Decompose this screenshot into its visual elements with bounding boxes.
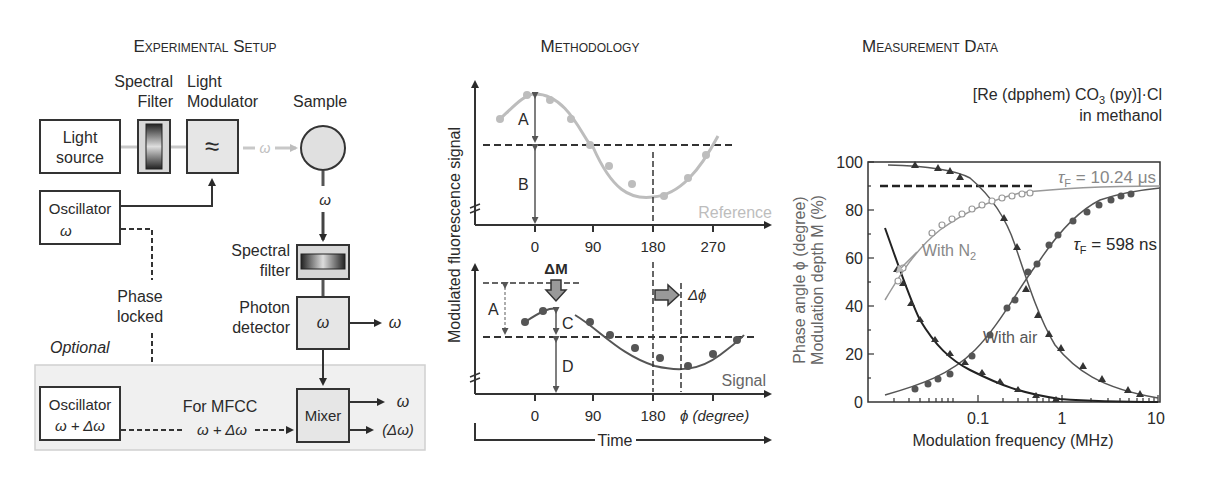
light-source-label-2: source [56,149,104,166]
detector-omega: ω [317,314,329,331]
phi-degree-label: ϕ (degree) [680,407,749,424]
sig-mark-a: A [488,301,499,318]
y-tick-0: 0 [854,394,863,411]
photon-detector-label: Photon [239,299,290,316]
sig-tick-90: 90 [585,407,602,424]
oscillator-2-freq: ω + Δω [55,417,105,434]
oscillator-2-label: Oscillator [49,396,112,413]
delta-phi-label: Δϕ [687,286,706,303]
light-modulator-label-2: Modulator [187,93,259,110]
tau-598ns-label: τF = 598 ns [1073,235,1157,256]
sample-circle [301,126,345,170]
detector-output-omega: ω [389,314,401,331]
modulator-wave-icon: ≈ [205,131,219,161]
spectral-filter-2-label-2: filter [260,262,291,279]
beam-omega: ω [260,140,271,156]
with-air-label: With air [983,329,1038,346]
time-label: Time [598,432,633,449]
reference-label: Reference [698,204,772,221]
ref-tick-270: 270 [700,238,725,255]
optional-label: Optional [50,339,110,356]
y-axis-label-2: Modulation depth M (%) [809,195,826,365]
methodology-title: Methodology [541,37,640,56]
delta-phi-arrow-icon [655,285,679,305]
y-axis-label-1: Phase angle ϕ (degree) [791,196,808,363]
ref-tick-180: 180 [640,238,665,255]
compound-label: [Re (dpphem) CO3 (py)]·Cl [973,86,1162,106]
for-mfcc-label: For MFCC [183,398,258,415]
measurement-title: Measurement Data [862,37,998,56]
ref-tick-90: 90 [585,238,602,255]
ref-tick-0: 0 [531,238,539,255]
setup-panel: Experimental Setup Spectral Filter Light… [35,37,425,450]
sig-mark-d: D [562,358,574,375]
sig-tick-180: 180 [640,407,665,424]
mfcc-signal-label: ω + Δω [197,421,247,438]
mixer-output-omega: ω [397,393,409,410]
measurement-panel: Measurement Data [Re (dpphem) CO3 (py)]·… [791,37,1165,449]
figure: Experimental Setup Spectral Filter Light… [0,0,1205,481]
signal-curve [525,309,744,370]
signal-label: Signal [722,372,766,389]
y-tick-20: 20 [845,346,863,363]
x-tick-0.1: 0.1 [967,410,989,427]
methodology-panel: Methodology Modulated fluorescence signa… [446,37,772,449]
sample-label: Sample [293,93,347,110]
ref-mark-b: B [518,176,529,193]
methodology-y-label: Modulated fluorescence signal [446,127,463,343]
light-source-label: Light [63,129,98,146]
light-modulator-label: Light [187,73,222,90]
y-tick-60: 60 [845,250,863,267]
photon-detector-label-2: detector [232,319,290,336]
y-tick-40: 40 [845,298,863,315]
tau-10us-label: τF = 10.24 μs [1058,168,1156,189]
solvent-label: in methanol [1079,107,1162,124]
oscillator-label: Oscillator [49,200,112,217]
omega-down: ω [319,191,331,208]
setup-title: Experimental Setup [133,37,276,56]
sig-tick-0: 0 [531,407,539,424]
mixer-label: Mixer [305,407,342,424]
x-tick-1: 1 [1058,410,1067,427]
spectral-filter-label: Spectral [114,73,173,90]
y-tick-80: 80 [845,202,863,219]
delta-m-label: ΔM [544,260,567,277]
ref-mark-a: A [518,111,529,128]
oscillator-omega: ω [60,222,72,239]
spectral-filter-label-2: Filter [137,93,173,110]
x-tick-10: 10 [1147,410,1165,427]
mixer-output-delta: (Δω) [382,421,414,438]
spectral-filter-2-label: Spectral [231,242,290,259]
phase-locked-label-2: locked [117,308,163,325]
oscillator-box [40,191,120,244]
x-axis-label: Modulation frequency (MHz) [913,432,1114,449]
sig-mark-c: C [562,315,574,332]
y-tick-100: 100 [836,154,863,171]
phase-locked-label: Phase [117,288,162,305]
